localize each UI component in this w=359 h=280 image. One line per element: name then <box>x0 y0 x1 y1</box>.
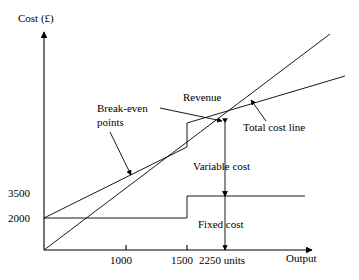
break-even-chart-figure: Cost (£) Output 1000 1500 2250 units 350… <box>0 0 359 280</box>
x-tick-label-1500: 1500 <box>171 254 194 266</box>
break-even-lower-leader <box>110 132 131 175</box>
y-axis-title: Cost (£) <box>18 12 54 25</box>
total-cost-line-leader <box>251 100 266 121</box>
variable-cost-label: Variable cost <box>193 160 250 172</box>
total-cost-line-label: Total cost line <box>243 121 305 133</box>
x-tick-label-1000: 1000 <box>110 254 133 266</box>
break-even-label-line1: Break-even <box>97 102 148 114</box>
break-even-upper-leader <box>160 108 222 121</box>
break-even-label-line2: points <box>97 116 124 128</box>
y-tick-label-2000: 2000 <box>8 212 31 224</box>
break-even-chart-canvas: Cost (£) Output 1000 1500 2250 units 350… <box>0 0 359 280</box>
x-tick-label-2250: 2250 units <box>199 254 245 266</box>
x-axis-title: Output <box>286 252 317 264</box>
fixed-cost-line <box>44 196 305 218</box>
revenue-label: Revenue <box>183 91 222 103</box>
y-tick-label-3500: 3500 <box>8 187 31 199</box>
fixed-cost-label: Fixed cost <box>198 218 244 230</box>
